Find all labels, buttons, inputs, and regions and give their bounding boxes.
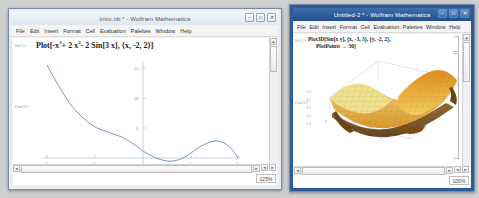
svg-text:0: 0 [352,128,354,132]
svg-text:0.0: 0.0 [306,106,311,110]
svg-text:1.0: 1.0 [306,90,311,94]
horizontal-scroll-thumb[interactable] [21,165,252,173]
notebook-canvas-right[interactable]: In[1]:= Plot3D[Sin[x y], {x, -3, 3}, {y,… [294,34,470,174]
scroll-right-button[interactable]: ► [446,167,453,174]
close-button[interactable]: ✕ [267,13,276,22]
svg-text:0: 0 [434,110,436,114]
in-label-right: In[1]:= [295,38,308,43]
scroll-up-button[interactable]: ▲ [270,38,277,45]
scroll-corner-left-button[interactable]: ◄ [454,166,461,173]
svg-text:0.5: 0.5 [306,98,311,102]
scroll-right-button[interactable]: ► [253,165,260,172]
window-intro-nb[interactable]: intro.nb * - Wolfram Mathematica – □ ✕ F… [8,8,282,190]
svg-text:-1.0: -1.0 [306,122,311,126]
vertical-scroll-thumb[interactable] [463,42,470,82]
svg-text:2: 2 [380,136,382,140]
titlebar-right[interactable]: Untitled-2 * - Wolfram Mathematica – □ ✕ [293,8,471,21]
svg-text:-0.5: -0.5 [306,114,311,118]
titlebar-left[interactable]: intro.nb * - Wolfram Mathematica – □ ✕ [12,12,278,25]
close-button[interactable]: ✕ [460,9,469,18]
zoom-level-right[interactable]: 100% [449,176,469,185]
cell-bracket-input-right[interactable] [454,36,459,52]
maximize-button[interactable]: □ [449,9,458,18]
code-term2: + 2 x [62,41,79,50]
minimize-button[interactable]: – [245,13,254,22]
window-buttons-right: – □ ✕ [438,9,469,18]
svg-text:5: 5 [136,126,139,131]
zoom-level-left[interactable]: 125% [256,174,276,183]
vertical-scroll-thumb[interactable] [270,46,277,72]
statusbar-right: ◄ ► ◄ ► 100% [294,166,470,187]
horizontal-scrollbar-right[interactable]: ◄ ► [294,166,453,175]
notebook-canvas-left[interactable]: In[1]:= Plot[-x3+ 2 x2- 2 Sin[3 x], {x, … [13,38,277,172]
in-label-left: In[1]:= [15,43,28,48]
svg-text:2: 2 [443,96,445,100]
svg-text:-2: -2 [324,120,327,124]
window-title-left: intro.nb * - Wolfram Mathematica [100,16,191,22]
out-label-left: Out[1]= [15,104,30,109]
plot-2d-graphic: -2 -1 1 2 15 10 5 [35,57,245,172]
code-fn: Plot [36,41,50,50]
scroll-left-button[interactable]: ◄ [13,165,20,172]
maximize-button[interactable]: □ [256,13,265,22]
code-term3: - 2 Sin[3 x], {x, -2, 2} [81,41,151,50]
scroll-up-button[interactable]: ▲ [463,34,470,41]
vertical-scrollbar-left[interactable]: ▲ ▼ [269,38,277,172]
statusbar-left: ◄ ► ◄ ► 125% [13,164,277,185]
svg-text:-2: -2 [423,126,426,130]
input-code-right-line1[interactable]: Plot3D[Sin[x y], {x, -3, 3}, {y, -2, 2}, [308,36,391,42]
input-code-left[interactable]: Plot[-x3+ 2 x2- 2 Sin[3 x], {x, -2, 2}] [36,40,153,50]
window-buttons-left: – □ ✕ [245,13,276,22]
window-untitled-2[interactable]: Untitled-2 * - Wolfram Mathematica – □ ✕… [289,4,475,192]
horizontal-scroll-thumb[interactable] [302,167,445,175]
plot-3d-graphic: 1.0 0.5 0.0 -0.5 -1.0 -2 0 2 2 0 -2 [306,51,464,161]
scroll-corner-right-button[interactable]: ► [462,166,469,173]
scroll-corner-left-button[interactable]: ◄ [261,164,268,171]
svg-text:10: 10 [134,96,139,101]
window-title-right: Untitled-2 * - Wolfram Mathematica [334,12,431,18]
input-code-right-line2[interactable]: PlotPoints → 30] [316,43,356,49]
minimize-button[interactable]: – [438,9,447,18]
scroll-corner-right-button[interactable]: ► [269,164,276,171]
scroll-left-button[interactable]: ◄ [294,167,301,174]
svg-text:15: 15 [134,66,139,71]
code-close: ] [151,41,154,50]
vertical-scrollbar-right[interactable]: ▲ ▼ [462,34,470,174]
horizontal-scrollbar-left[interactable]: ◄ ► [13,164,260,173]
